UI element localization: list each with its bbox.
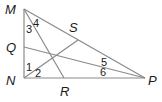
label-n: N: [6, 73, 16, 88]
angle-2: 2: [35, 67, 41, 79]
segment-qp: [24, 47, 145, 78]
angle-4: 4: [33, 17, 39, 29]
label-s: S: [69, 20, 78, 35]
label-m: M: [5, 2, 16, 17]
label-q: Q: [6, 40, 16, 55]
label-r: R: [60, 84, 69, 99]
angle-1: 1: [26, 61, 32, 73]
label-p: P: [148, 73, 157, 88]
angle-6: 6: [100, 66, 106, 78]
triangle-diagram: M Q N R S P 3 4 1 2 5 6: [0, 0, 162, 102]
angle-3: 3: [26, 23, 32, 35]
segment-mp: [24, 9, 145, 78]
